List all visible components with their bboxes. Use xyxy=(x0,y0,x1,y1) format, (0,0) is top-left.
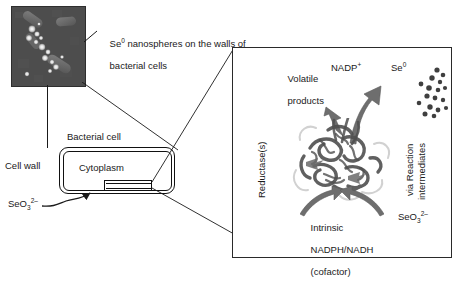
nadp-label: NADP+ xyxy=(331,62,361,73)
se0-nanosphere-dots xyxy=(407,62,455,122)
se0-label: Se0 xyxy=(391,62,406,73)
micrograph-to-cell-connector xyxy=(46,85,50,149)
reaction-intermediates-label: intermediates xyxy=(416,143,427,200)
membrane-transport-segment-inner xyxy=(106,183,151,189)
cell-wall-label: Cell wall xyxy=(5,160,40,171)
intrinsic-cofactor-label: Intrinsic NADPH/NADH (cofactor) xyxy=(300,211,373,281)
micrograph-caption-leader-line xyxy=(84,28,98,44)
tem-micrograph-image xyxy=(11,6,86,87)
reductase-label: Reductase(s) xyxy=(256,142,267,199)
via-reaction-label: via Reaction xyxy=(404,144,415,196)
selenite-label-cell: SeO32– xyxy=(8,198,38,209)
panel-expansion-lines xyxy=(148,46,236,236)
cytoplasm-label: Cytoplasm xyxy=(79,162,124,173)
tem-micrograph-svg xyxy=(12,7,85,86)
bacterial-cell-label: Bacterial cell xyxy=(67,131,121,142)
selenite-uptake-arrow xyxy=(40,186,108,212)
selenite-label-panel: SeO32– xyxy=(398,211,428,222)
